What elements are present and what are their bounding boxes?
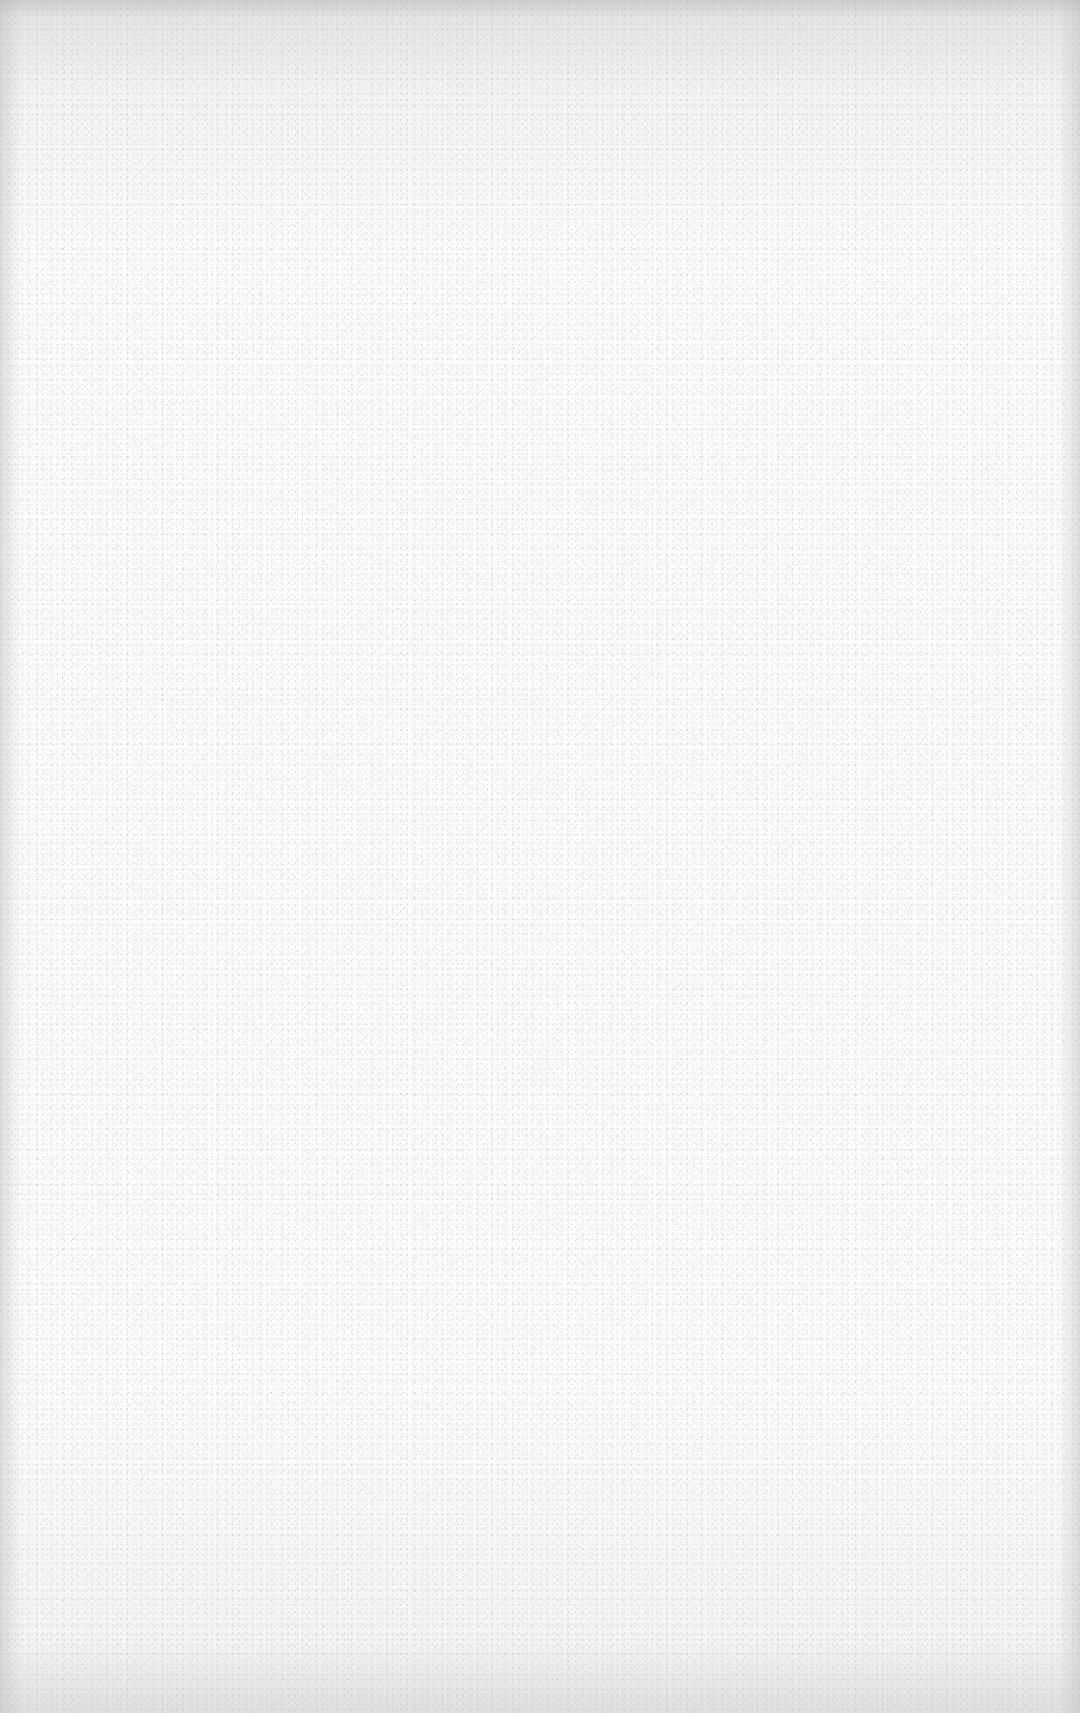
paper-grain-bottom	[0, 1393, 1080, 1713]
paper-grain-top	[0, 0, 1080, 260]
blank-scanned-page	[0, 0, 1080, 1713]
paper-speckle-texture	[0, 0, 1080, 1713]
scan-edge-vignette	[0, 0, 1080, 1713]
